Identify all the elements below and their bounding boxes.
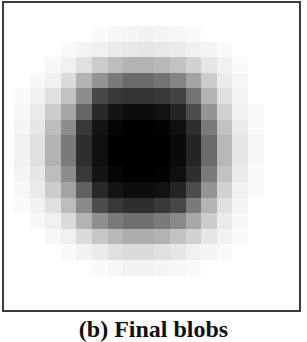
heatmap-cell [170, 135, 186, 151]
heatmap-cell [154, 151, 170, 167]
heatmap-cell [201, 104, 217, 120]
heatmap-cell [76, 182, 92, 198]
heatmap-cell [170, 42, 186, 58]
heatmap-cell [139, 88, 155, 104]
heatmap-cell [76, 26, 92, 42]
heatmap-cell [45, 166, 61, 182]
heatmap-cell [123, 135, 139, 151]
heatmap-cell [170, 88, 186, 104]
heatmap-cell [217, 198, 233, 214]
heatmap-cell [30, 42, 46, 58]
heatmap-cell [92, 229, 108, 245]
heatmap-cell [248, 26, 264, 42]
heatmap-cell [108, 135, 124, 151]
heatmap-cell [232, 244, 248, 260]
heatmap-cell [76, 260, 92, 276]
heatmap-cell [45, 26, 61, 42]
heatmap-cell [248, 57, 264, 73]
heatmap-cell [170, 244, 186, 260]
heatmap-cell [76, 120, 92, 136]
heatmap-cell [123, 88, 139, 104]
heatmap-cell [108, 244, 124, 260]
heatmap-cell [14, 229, 30, 245]
heatmap-cell [170, 26, 186, 42]
heatmap-cell [186, 73, 202, 89]
heatmap-cell [217, 88, 233, 104]
heatmap-cell [30, 88, 46, 104]
heatmap-cell [217, 104, 233, 120]
heatmap-cell [30, 151, 46, 167]
heatmap-cell [139, 42, 155, 58]
heatmap-cell [139, 244, 155, 260]
heatmap-cell [61, 26, 77, 42]
heatmap-cell [92, 182, 108, 198]
heatmap-cell [30, 213, 46, 229]
heatmap-cell [108, 213, 124, 229]
heatmap-cell [186, 88, 202, 104]
heatmap-cell [14, 57, 30, 73]
heatmap-cell [108, 120, 124, 136]
heatmap-cell [154, 244, 170, 260]
heatmap-cell [186, 26, 202, 42]
heatmap-cell [92, 135, 108, 151]
heatmap-cell [14, 42, 30, 58]
heatmap-cell [61, 135, 77, 151]
heatmap-cell [232, 57, 248, 73]
heatmap-cell [139, 213, 155, 229]
heatmap-cell [170, 73, 186, 89]
heatmap-cell [217, 166, 233, 182]
heatmap-cell [139, 73, 155, 89]
heatmap-cell [14, 182, 30, 198]
heatmap-cell [217, 73, 233, 89]
heatmap-cell [154, 73, 170, 89]
heatmap-cell [123, 42, 139, 58]
heatmap-cell [217, 151, 233, 167]
heatmap-cell [217, 135, 233, 151]
heatmap-cell [201, 26, 217, 42]
heatmap-cell [30, 244, 46, 260]
heatmap-cell [154, 120, 170, 136]
heatmap-cell [154, 42, 170, 58]
heatmap-cell [248, 198, 264, 214]
heatmap-cell [139, 120, 155, 136]
heatmap-cell [30, 120, 46, 136]
heatmap-cell [232, 73, 248, 89]
heatmap-cell [92, 244, 108, 260]
heatmap-cell [170, 198, 186, 214]
heatmap-cell [61, 229, 77, 245]
heatmap-cell [201, 57, 217, 73]
heatmap-cell [14, 260, 30, 276]
heatmap-cell [92, 104, 108, 120]
heatmap-cell [123, 260, 139, 276]
heatmap-cell [92, 26, 108, 42]
heatmap-cell [108, 182, 124, 198]
heatmap-cell [154, 104, 170, 120]
heatmap-cell [76, 166, 92, 182]
heatmap-cell [61, 198, 77, 214]
heatmap-cell [108, 198, 124, 214]
heatmap-cell [45, 182, 61, 198]
heatmap-cell [14, 104, 30, 120]
heatmap-cell [45, 260, 61, 276]
heatmap-cell [201, 135, 217, 151]
heatmap-cell [170, 213, 186, 229]
heatmap-cell [61, 73, 77, 89]
heatmap-cell [232, 151, 248, 167]
heatmap-cell [232, 260, 248, 276]
heatmap-cell [186, 244, 202, 260]
heatmap-cell [61, 260, 77, 276]
heatmap-cell [170, 57, 186, 73]
heatmap-cell [14, 26, 30, 42]
heatmap-cell [76, 198, 92, 214]
heatmap-cell [232, 135, 248, 151]
heatmap-cell [92, 260, 108, 276]
heatmap-cell [248, 260, 264, 276]
heatmap-cell [30, 26, 46, 42]
heatmap-cell [248, 104, 264, 120]
heatmap-cell [30, 73, 46, 89]
heatmap-cell [123, 104, 139, 120]
heatmap-cell [139, 166, 155, 182]
heatmap-cell [30, 135, 46, 151]
heatmap-cell [92, 42, 108, 58]
heatmap-cell [45, 213, 61, 229]
